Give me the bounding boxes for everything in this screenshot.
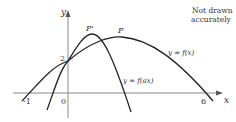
- graph-diagram: y x 0 -1 6 2 P' P y = f(x) y = f(ax) Not…: [0, 0, 236, 122]
- peak-p-prime-label: P': [85, 24, 94, 33]
- x-tick-6: 6: [201, 97, 206, 106]
- curve-f-ax-label: y = f(ax): [122, 77, 154, 85]
- peak-p-label: P: [117, 26, 124, 35]
- curve-f-x-label: y = f(x): [167, 49, 195, 57]
- y-axis-label: y: [60, 7, 67, 17]
- y-axis-arrow-icon: [66, 10, 71, 17]
- origin-label: 0: [61, 97, 66, 106]
- note-line-2: accurately: [191, 15, 232, 24]
- y-tick-2: 2: [60, 54, 65, 63]
- x-tick-neg1: -1: [23, 97, 31, 106]
- note-line-1: Not drawn: [192, 6, 233, 15]
- x-axis-arrow-icon: [216, 91, 223, 96]
- x-axis-label: x: [224, 95, 229, 105]
- curve-f-x: [22, 37, 213, 101]
